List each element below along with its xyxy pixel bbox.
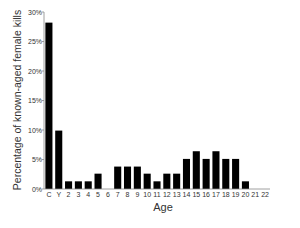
x-tick-label: 4 (86, 191, 90, 198)
bar-10 (144, 174, 151, 189)
x-tick-label: 12 (163, 191, 171, 198)
bar-12 (163, 174, 170, 189)
bar-18 (222, 159, 229, 189)
x-tick-label: 5 (96, 191, 100, 198)
bar-7 (114, 167, 121, 189)
y-tick-label: 0% (32, 186, 42, 193)
y-tick-label: 10% (28, 127, 42, 134)
x-tick-label: 16 (202, 191, 210, 198)
bar-2 (65, 181, 72, 189)
x-tick-label: 6 (106, 191, 110, 198)
y-tick-label: 20% (28, 68, 42, 75)
bar-C (45, 23, 52, 189)
x-axis-label: Age (153, 201, 173, 213)
bar-chart: 0%5%10%15%20%25%30% CY234567891011121314… (0, 0, 300, 228)
y-axis-label: Percentage of known-aged female kills (11, 10, 23, 190)
x-tick-label: 10 (143, 191, 151, 198)
bar-17 (212, 151, 219, 189)
bar-16 (203, 159, 210, 189)
y-tick-label: 15% (28, 97, 42, 104)
x-tick-label: 19 (232, 191, 240, 198)
y-tick-label: 30% (28, 9, 42, 16)
bar-9 (134, 167, 141, 189)
x-tick-label: 2 (67, 191, 71, 198)
bars (45, 23, 249, 189)
x-tick-label: 22 (261, 191, 269, 198)
x-tick-label: 18 (222, 191, 230, 198)
x-axis: CY2345678910111213141516171819202122 (44, 189, 270, 198)
x-tick-label: 15 (192, 191, 200, 198)
bar-15 (193, 151, 200, 189)
x-tick-label: 17 (212, 191, 220, 198)
x-tick-label: 14 (183, 191, 191, 198)
bar-8 (124, 167, 131, 189)
x-tick-label: 11 (153, 191, 160, 198)
bar-Y (55, 131, 62, 189)
bar-13 (173, 174, 180, 189)
x-tick-label: C (46, 191, 51, 198)
x-tick-label: 7 (116, 191, 120, 198)
x-tick-label: 20 (242, 191, 250, 198)
bar-4 (85, 181, 92, 189)
x-tick-label: Y (56, 191, 61, 198)
x-tick-label: 3 (76, 191, 80, 198)
bar-5 (95, 174, 102, 189)
x-tick-label: 21 (251, 191, 259, 198)
bar-19 (232, 159, 239, 189)
y-tick-label: 25% (28, 38, 42, 45)
bar-20 (242, 181, 249, 189)
bar-3 (75, 181, 82, 189)
bar-11 (153, 181, 160, 189)
x-tick-label: 8 (126, 191, 130, 198)
x-tick-label: 13 (173, 191, 181, 198)
x-tick-label: 9 (135, 191, 139, 198)
y-axis: 0%5%10%15%20%25%30% (28, 9, 44, 193)
bar-14 (183, 159, 190, 189)
y-tick-label: 5% (32, 156, 42, 163)
